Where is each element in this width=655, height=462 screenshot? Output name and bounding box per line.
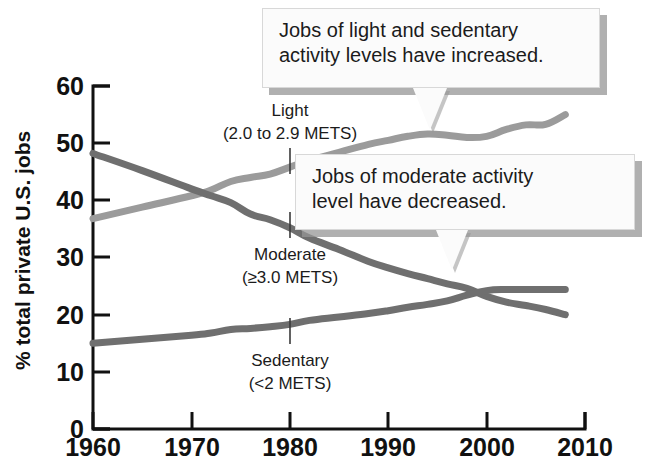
- x-tick-label-1980: 1980: [262, 433, 318, 461]
- y-tick-label-50: 50: [56, 129, 84, 157]
- sedentary-series-label: Sedentary: [251, 351, 329, 370]
- y-tick-label-20: 20: [56, 301, 84, 329]
- moderate-series-label: Moderate: [254, 245, 326, 264]
- x-tick-label-2000: 2000: [459, 433, 515, 461]
- y-tick-label-30: 30: [56, 243, 84, 271]
- x-tick-label-1970: 1970: [164, 433, 220, 461]
- callout-moderate: Jobs of moderate activity level have dec…: [295, 154, 635, 230]
- x-tick-marks: [93, 412, 585, 429]
- y-tick-label-60: 60: [56, 72, 84, 100]
- callout-one-tail: [413, 88, 447, 130]
- chart-figure: 60 50 40 30 20 10 0 1960 1970 1980 1990 …: [0, 0, 655, 462]
- callout-one-line-one: Jobs of light and sedentary: [279, 18, 585, 43]
- x-tick-label-2010: 2010: [557, 433, 613, 461]
- sedentary-series-detail: (<2 METS): [249, 374, 332, 393]
- moderate-series-detail: (≥3.0 METS): [242, 268, 338, 287]
- x-axis-line: [93, 412, 585, 429]
- y-tick-label-10: 10: [56, 358, 84, 386]
- x-tick-label-1990: 1990: [360, 433, 416, 461]
- callout-two-line-one: Jobs of moderate activity: [312, 164, 620, 189]
- y-axis-title: % total private U.S. jobs: [11, 131, 34, 370]
- callout-one-line-two: activity levels have increased.: [279, 43, 585, 68]
- y-tick-marks: [93, 86, 110, 429]
- callout-two-tail: [436, 230, 468, 270]
- light-series-detail: (2.0 to 2.9 METS): [223, 124, 357, 143]
- callout-light-sedentary: Jobs of light and sedentary activity lev…: [262, 8, 600, 88]
- y-tick-label-40: 40: [56, 186, 84, 214]
- x-tick-label-1960: 1960: [65, 433, 121, 461]
- callout-two-line-two: level have decreased.: [312, 189, 620, 214]
- light-series-label: Light: [272, 101, 309, 120]
